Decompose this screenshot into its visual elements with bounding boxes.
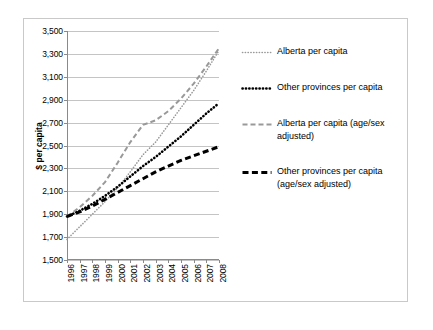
y-axis-tick-label: 1,500 bbox=[42, 256, 63, 265]
legend-entry: Other provinces per capita bbox=[242, 81, 394, 94]
y-axis-tick-mark bbox=[64, 54, 67, 55]
y-axis-tick-mark bbox=[64, 168, 67, 169]
x-axis-tick-label: 1997 bbox=[79, 264, 88, 283]
y-axis-tick-mark bbox=[64, 31, 67, 32]
x-axis-tick-label: 2000 bbox=[117, 264, 126, 283]
x-axis-tick-label: 2001 bbox=[130, 264, 139, 283]
x-axis-tick-label: 1998 bbox=[92, 264, 101, 283]
x-axis-tick-label: 2005 bbox=[181, 264, 190, 283]
x-axis-tick-label: 2007 bbox=[206, 264, 215, 283]
y-axis-tick-mark bbox=[64, 146, 67, 147]
x-axis-tick-label: 2008 bbox=[219, 264, 228, 283]
y-axis-tick-label: 2,500 bbox=[42, 141, 63, 150]
legend-entry: Alberta per capita bbox=[242, 45, 394, 58]
legend-entry: Other provinces per capita (age/sex adju… bbox=[242, 165, 394, 190]
chart-legend: Alberta per capitaOther provinces per ca… bbox=[242, 45, 394, 213]
y-axis-tick-mark bbox=[64, 123, 67, 124]
legend-label: Alberta per capita (age/sex adjusted) bbox=[277, 117, 394, 142]
legend-label: Alberta per capita bbox=[277, 45, 348, 58]
y-axis-tick-label: 3,100 bbox=[42, 73, 63, 82]
y-axis-tick-label: 1,900 bbox=[42, 210, 63, 219]
x-axis-tick-label: 2002 bbox=[143, 264, 152, 283]
y-axis-tick-mark bbox=[64, 77, 67, 78]
plot-area: 1,5001,7001,9002,1002,3002,5002,7002,900… bbox=[67, 31, 219, 260]
y-axis-tick-label: 3,300 bbox=[42, 50, 63, 59]
y-axis-tick-mark bbox=[64, 214, 67, 215]
x-axis-tick-label: 2003 bbox=[155, 264, 164, 283]
y-axis-tick-mark bbox=[64, 191, 67, 192]
y-axis-tick-label: 1,700 bbox=[42, 233, 63, 242]
dashed-gray-swatch bbox=[242, 119, 272, 130]
chart-figure: $ per capita 1,5001,7001,9002,1002,3002,… bbox=[23, 18, 408, 302]
bold-dashed-black-swatch bbox=[242, 167, 272, 178]
series-lines bbox=[67, 31, 219, 260]
y-axis-tick-label: 2,300 bbox=[42, 164, 63, 173]
y-axis-tick-label: 3,500 bbox=[42, 27, 63, 36]
y-axis-tick-label: 2,700 bbox=[42, 118, 63, 127]
y-axis-tick-label: 2,100 bbox=[42, 187, 63, 196]
x-axis-tick-label: 1999 bbox=[105, 264, 114, 283]
y-axis-tick-label: 2,900 bbox=[42, 95, 63, 104]
bold-dotted-black-swatch bbox=[242, 83, 272, 94]
legend-label: Other provinces per capita (age/sex adju… bbox=[277, 165, 394, 190]
legend-entry: Alberta per capita (age/sex adjusted) bbox=[242, 117, 394, 142]
series-line bbox=[67, 48, 219, 216]
y-axis-tick-mark bbox=[64, 237, 67, 238]
fine-dotted-gray-swatch bbox=[242, 47, 272, 58]
x-axis-tick-label: 2006 bbox=[193, 264, 202, 283]
x-axis-tick-label: 2004 bbox=[168, 264, 177, 283]
x-axis-tick-label: 1996 bbox=[67, 264, 76, 283]
legend-label: Other provinces per capita bbox=[277, 81, 383, 94]
y-axis-tick-mark bbox=[64, 100, 67, 101]
